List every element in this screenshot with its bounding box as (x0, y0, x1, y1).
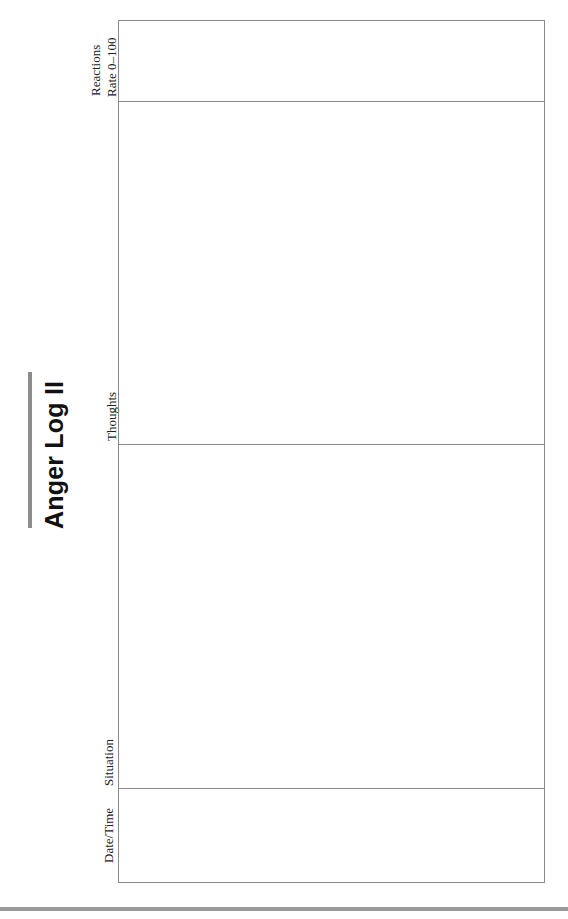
anger-log-table (118, 20, 545, 883)
column-header-date-time: Date/Time (102, 808, 115, 863)
column-header-thoughts: Thoughts (105, 392, 118, 441)
title-accent-bar (28, 372, 32, 528)
column-header-situation: Situation (102, 739, 115, 786)
page-title: Anger Log II (42, 381, 67, 529)
bottom-rule (0, 907, 568, 911)
thoughts-cell[interactable] (119, 102, 544, 444)
situation-cell[interactable] (119, 445, 544, 788)
reactions-cell[interactable] (119, 21, 544, 101)
column-header-reactions: Reactions (89, 45, 102, 96)
date-time-cell[interactable] (119, 789, 544, 882)
column-header-reactions-rate: Rate 0–100 (105, 37, 118, 97)
